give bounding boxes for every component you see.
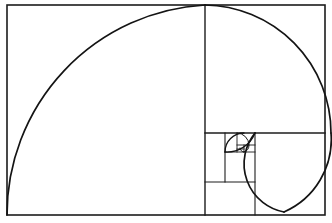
spiral-arc-fib-13 — [7, 5, 205, 215]
golden-spiral-canvas — [0, 0, 332, 223]
golden-rectangle-border — [7, 5, 325, 215]
fibonacci-spiral-figure: Fibonacci Golden Spiral Golden rectangle… — [0, 0, 332, 223]
spiral-arc-fib-1b — [237, 133, 249, 145]
spiral-arc-fib-5 — [284, 133, 331, 212]
spiral-arc-fib-8 — [205, 5, 331, 133]
